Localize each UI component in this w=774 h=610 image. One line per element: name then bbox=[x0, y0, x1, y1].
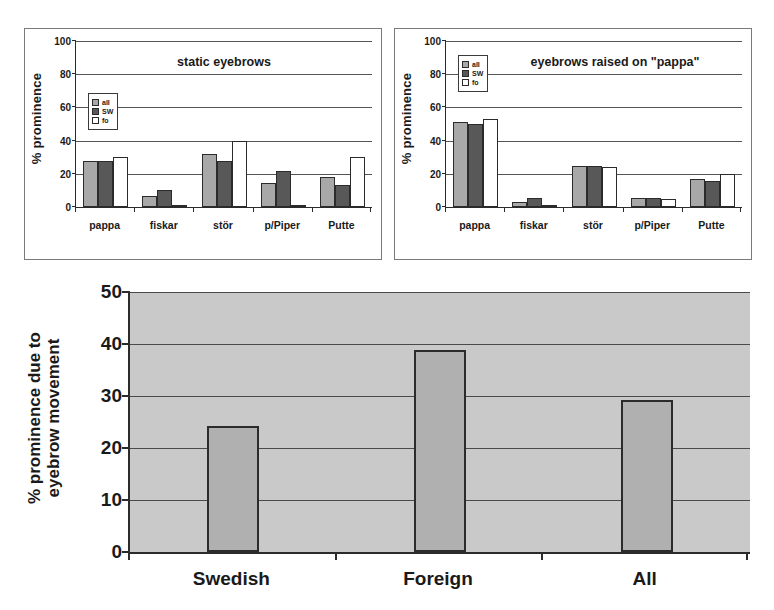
chart2-group-putte bbox=[683, 41, 742, 207]
chart-panel-static-eyebrows: % prominence 100 80 bbox=[24, 28, 382, 260]
chart2-xtick-3 bbox=[623, 207, 624, 212]
legend-swatch-fo-icon bbox=[462, 79, 469, 86]
chart3-bar-groups bbox=[130, 292, 750, 552]
chart-panel-eyebrows-raised: % prominence 100 80 60 bbox=[394, 28, 752, 260]
chart1-bar-stor-fo bbox=[232, 141, 247, 207]
chart1-bar-putte-all bbox=[320, 177, 335, 207]
chart1-xtick-2 bbox=[193, 207, 194, 212]
chart1-legend-label-sw: SW bbox=[102, 108, 113, 115]
chart2-bar-ppiper-fo bbox=[661, 199, 676, 207]
chart1-ytick-label-80: 80 bbox=[60, 69, 71, 80]
chart1-bar-fiskar-sw bbox=[157, 190, 172, 207]
chart2-xlabel-fiskar: fiskar bbox=[504, 219, 563, 231]
chart1-group-ppiper bbox=[254, 41, 313, 207]
legend-swatch-fo-icon bbox=[92, 117, 99, 124]
chart1-xlabel-stor: stör bbox=[193, 219, 252, 231]
chart2-y-axis-title: % prominence bbox=[397, 29, 417, 207]
chart1-y-axis-title-text: % prominence bbox=[30, 72, 45, 163]
chart3-y-axis-title: % prominence due to eyebrow movement bbox=[18, 284, 70, 552]
chart3-x-axis-labels: Swedish Foreign All bbox=[128, 568, 748, 590]
chart2-xtick-0 bbox=[445, 207, 446, 212]
chart1-bar-stor-sw bbox=[217, 161, 232, 208]
chart1-xtick-5 bbox=[370, 207, 371, 212]
chart1-bar-ppiper-all bbox=[261, 183, 276, 207]
chart2-bar-ppiper-sw bbox=[646, 198, 661, 207]
chart2-group-fiskar bbox=[505, 41, 564, 207]
chart2-bar-stor-all bbox=[572, 166, 587, 208]
chart3-y-axis-title-line1: % prominence due to bbox=[25, 332, 44, 504]
chart2-xlabel-putte: Putte bbox=[682, 219, 741, 231]
chart1-xtick-0 bbox=[75, 207, 76, 212]
chart1-ytick-label-100: 100 bbox=[54, 36, 71, 47]
chart3-ytick-mark-40 bbox=[122, 343, 130, 345]
legend-swatch-sw-icon bbox=[92, 108, 99, 115]
chart1-group-fiskar bbox=[135, 41, 194, 207]
chart2-bar-putte-sw bbox=[705, 181, 720, 207]
chart1-bar-putte-fo bbox=[350, 157, 365, 207]
chart2-ytick-label-20: 20 bbox=[430, 168, 441, 179]
chart3-ytick-mark-10 bbox=[122, 499, 130, 501]
chart2-legend-label-fo: fo bbox=[472, 79, 479, 86]
chart3-group-foreign bbox=[337, 292, 544, 552]
chart3-bar-all bbox=[621, 400, 673, 552]
chart1-xlabel-ppiper: p/Piper bbox=[253, 219, 312, 231]
chart2-bar-groups bbox=[446, 41, 742, 207]
chart2-xtick-2 bbox=[563, 207, 564, 212]
chart1-xlabel-putte: Putte bbox=[312, 219, 371, 231]
chart1-bar-fiskar-all bbox=[142, 196, 157, 207]
chart3-ytick-label-20: 20 bbox=[101, 437, 122, 459]
chart1-bar-groups bbox=[76, 41, 372, 207]
chart3-xtick-0 bbox=[128, 552, 130, 560]
chart2-ytick-label-0: 0 bbox=[435, 202, 441, 213]
chart3-xlabel-foreign: Foreign bbox=[335, 568, 542, 590]
chart2-bar-fiskar-sw bbox=[527, 198, 542, 207]
chart3-xtick-1 bbox=[335, 552, 337, 560]
chart1-bar-fiskar-fo bbox=[172, 205, 187, 207]
chart3-xtick-3 bbox=[746, 552, 748, 560]
chart1-bar-stor-all bbox=[202, 154, 217, 207]
chart2-bar-pappa-sw bbox=[468, 124, 483, 207]
chart1-ytick-label-60: 60 bbox=[60, 102, 71, 113]
chart3-group-swedish bbox=[130, 292, 337, 552]
chart1-legend-label-fo: fo bbox=[102, 117, 109, 124]
chart2-legend-label-sw: SW bbox=[472, 70, 483, 77]
chart3-ytick-mark-50 bbox=[122, 291, 130, 293]
chart2-group-ppiper bbox=[624, 41, 683, 207]
chart3-ytick-mark-30 bbox=[122, 395, 130, 397]
chart1-bar-pappa-all bbox=[83, 161, 98, 208]
chart1-bar-pappa-fo bbox=[113, 157, 128, 207]
chart3-plot-area: 50 40 30 20 10 0 bbox=[128, 292, 750, 554]
chart2-xtick-4 bbox=[682, 207, 683, 212]
chart3-ytick-label-0: 0 bbox=[111, 541, 122, 563]
chart2-bar-stor-sw bbox=[587, 166, 602, 208]
chart1-bar-pappa-sw bbox=[98, 161, 113, 208]
chart2-bar-putte-all bbox=[690, 179, 705, 207]
chart1-legend-item-all: all bbox=[92, 99, 113, 106]
chart2-ytick-label-40: 40 bbox=[430, 135, 441, 146]
chart1-ytick-label-0: 0 bbox=[65, 202, 71, 213]
chart1-bar-ppiper-fo bbox=[291, 205, 306, 207]
figure-root: % prominence 100 80 bbox=[0, 0, 774, 610]
chart1-xtick-4 bbox=[312, 207, 313, 212]
chart2-ytick-label-80: 80 bbox=[430, 69, 441, 80]
chart3-bar-swedish bbox=[207, 426, 259, 552]
chart1-legend: all SW fo bbox=[88, 93, 118, 130]
chart2-bar-fiskar-all bbox=[512, 202, 527, 207]
chart2-legend-item-all: all bbox=[462, 61, 483, 68]
chart1-legend-item-sw: SW bbox=[92, 108, 113, 115]
chart1-y-axis-title: % prominence bbox=[27, 29, 47, 207]
chart1-ytick-label-20: 20 bbox=[60, 168, 71, 179]
chart2-xlabel-pappa: pappa bbox=[445, 219, 504, 231]
chart1-bar-putte-sw bbox=[335, 185, 350, 207]
chart1-ytick-label-40: 40 bbox=[60, 135, 71, 146]
chart2-bar-stor-fo bbox=[602, 167, 617, 207]
chart1-xlabel-pappa: pappa bbox=[75, 219, 134, 231]
legend-swatch-all-icon bbox=[462, 61, 469, 68]
chart2-bar-fiskar-fo bbox=[542, 205, 557, 207]
chart2-xlabel-stor: stör bbox=[563, 219, 622, 231]
chart1-legend-item-fo: fo bbox=[92, 117, 113, 124]
chart2-x-axis-labels: pappa fiskar stör p/Piper Putte bbox=[445, 219, 741, 231]
chart1-group-putte bbox=[313, 41, 372, 207]
chart2-bar-pappa-fo bbox=[483, 119, 498, 207]
chart1-x-axis-labels: pappa fiskar stör p/Piper Putte bbox=[75, 219, 371, 231]
